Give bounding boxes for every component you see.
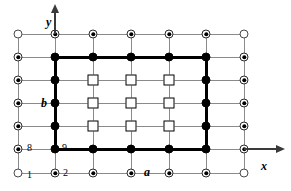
lattice-node-filled[interactable] [202, 145, 211, 154]
lbl-x: x [261, 160, 267, 172]
lattice-node-filled[interactable] [202, 99, 211, 108]
lattice-node-bullseye[interactable] [240, 99, 249, 108]
lattice-node-filled[interactable] [202, 53, 211, 62]
lattice-node-bullseye[interactable] [165, 30, 174, 39]
lattice-node-filled[interactable] [202, 76, 211, 85]
lbl-9: 9 [62, 143, 67, 153]
lattice-node-bullseye[interactable] [89, 169, 98, 178]
lbl-a: a [144, 166, 150, 178]
x-axis-line [244, 148, 278, 150]
lattice-node-square[interactable] [126, 75, 137, 86]
lattice-node-bullseye[interactable] [127, 30, 136, 39]
lattice-node-bullseye[interactable] [89, 30, 98, 39]
lbl-1: 1 [27, 170, 32, 180]
lattice-node-open-circle[interactable] [14, 169, 23, 178]
lattice-node-filled[interactable] [51, 76, 60, 85]
lattice-node-bullseye[interactable] [165, 169, 174, 178]
lattice-node-square[interactable] [88, 98, 99, 109]
y-axis-line [54, 12, 56, 34]
lattice-node-bullseye[interactable] [240, 76, 249, 85]
lattice-node-square[interactable] [126, 121, 137, 132]
lattice-node-filled[interactable] [51, 122, 60, 131]
lattice-node-filled[interactable] [51, 145, 60, 154]
lattice-node-bullseye[interactable] [240, 122, 249, 131]
lattice-node-bullseye[interactable] [14, 122, 23, 131]
lattice-node-open-circle[interactable] [14, 30, 23, 39]
lattice-node-square[interactable] [126, 98, 137, 109]
lattice-node-bullseye[interactable] [127, 169, 136, 178]
lbl-b: b [41, 97, 47, 109]
lattice-node-bullseye[interactable] [14, 99, 23, 108]
lattice-node-filled[interactable] [165, 145, 174, 154]
lattice-node-bullseye[interactable] [14, 53, 23, 62]
lattice-node-square[interactable] [88, 121, 99, 132]
lattice-figure: yxba8912 [0, 0, 291, 191]
lattice-node-bullseye[interactable] [51, 169, 60, 178]
lattice-node-filled[interactable] [89, 53, 98, 62]
lattice-node-filled[interactable] [165, 53, 174, 62]
lattice-node-filled[interactable] [202, 122, 211, 131]
lattice-node-filled[interactable] [127, 53, 136, 62]
lattice-node-square[interactable] [88, 75, 99, 86]
lattice-node-filled[interactable] [51, 53, 60, 62]
lbl-2: 2 [63, 168, 68, 178]
lattice-node-filled[interactable] [51, 99, 60, 108]
lattice-node-filled[interactable] [89, 145, 98, 154]
lattice-node-square[interactable] [164, 75, 175, 86]
lattice-node-bullseye[interactable] [202, 30, 211, 39]
lattice-node-bullseye[interactable] [14, 76, 23, 85]
lattice-node-filled[interactable] [127, 145, 136, 154]
arrow-up-icon [51, 4, 59, 13]
lattice-node-bullseye[interactable] [240, 53, 249, 62]
arrow-right-icon [276, 145, 285, 153]
lattice-node-open-circle[interactable] [240, 169, 249, 178]
lattice-node-bullseye[interactable] [14, 145, 23, 154]
lattice-node-square[interactable] [164, 98, 175, 109]
lattice-node-open-circle[interactable] [240, 30, 249, 39]
lattice-node-bullseye[interactable] [202, 169, 211, 178]
lbl-8: 8 [27, 143, 32, 153]
lattice-node-square[interactable] [164, 121, 175, 132]
lbl-y: y [46, 16, 51, 28]
